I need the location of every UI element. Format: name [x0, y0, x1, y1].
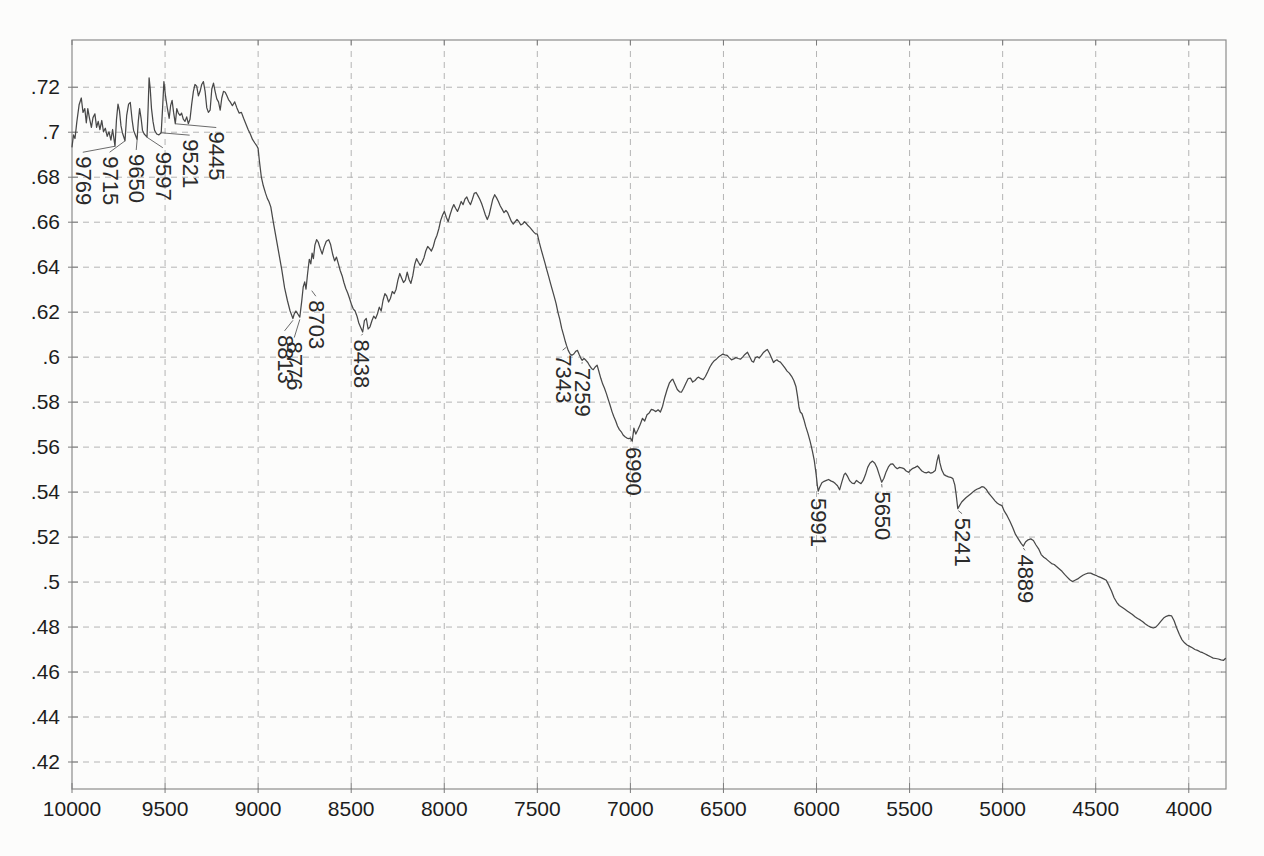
peak-label-5991: 5991 — [806, 498, 831, 547]
y-tick-label: .68 — [31, 165, 60, 188]
x-tick-label: 4000 — [1165, 797, 1212, 820]
peak-leader-line — [136, 140, 137, 150]
peak-label-9597: 9597 — [151, 152, 176, 201]
peak-label-9445: 9445 — [204, 132, 229, 181]
x-tick-label: 7500 — [514, 797, 561, 820]
spectrum-curve — [72, 78, 1225, 661]
peak-label-5241: 5241 — [950, 518, 975, 567]
y-tick-label: .56 — [31, 435, 60, 458]
gridlines — [72, 40, 1226, 789]
spectrum-plot-svg: 1000095009000850080007500700065006000550… — [0, 0, 1264, 856]
y-tick-label: .58 — [31, 390, 60, 413]
peak-leader-line — [361, 334, 362, 335]
peak-leader-line — [147, 137, 163, 147]
y-tick-label: .7 — [42, 120, 60, 143]
x-axis-labels: 1000095009000850080007500700065006000550… — [43, 797, 1212, 820]
y-tick-label: .66 — [31, 210, 60, 233]
x-tick-label: 5000 — [979, 797, 1026, 820]
y-tick-label: .52 — [31, 525, 60, 548]
spectrum-chart: 1000095009000850080007500700065006000550… — [0, 0, 1264, 856]
peak-label-5650: 5650 — [870, 491, 895, 540]
x-tick-label: 4500 — [1072, 797, 1119, 820]
y-tick-label: .6 — [42, 345, 60, 368]
plot-frame — [72, 40, 1226, 789]
peak-leader-line — [312, 291, 316, 297]
peak-leader-line — [175, 124, 216, 128]
x-tick-label: 6000 — [793, 797, 840, 820]
peak-leader-line — [958, 511, 962, 514]
peak-label-4889: 4889 — [1013, 554, 1038, 603]
peak-leader-line — [563, 347, 567, 350]
y-tick-label: .54 — [31, 480, 61, 503]
y-tick-label: .46 — [31, 660, 60, 683]
frame-rect — [72, 40, 1226, 789]
y-axis-labels: .72.7.68.66.64.62.6.58.56.54.52.5.48.46.… — [31, 75, 61, 773]
y-tick-label: .5 — [42, 570, 60, 593]
x-tick-label: 9500 — [142, 797, 189, 820]
peak-annotations: 9769971596509597952194458813877687038438… — [71, 124, 1038, 604]
y-tick-label: .64 — [31, 255, 61, 278]
x-tick-label: 6500 — [700, 797, 747, 820]
x-tick-label: 8000 — [421, 797, 468, 820]
peak-label-9521: 9521 — [178, 139, 203, 188]
peak-leader-line — [1023, 548, 1025, 550]
spectrum-series — [72, 78, 1225, 661]
x-tick-label: 5500 — [886, 797, 933, 820]
x-tick-label: 7000 — [607, 797, 654, 820]
peak-label-9769: 9769 — [71, 156, 96, 205]
y-tick-label: .72 — [31, 75, 60, 98]
peak-label-7259: 7259 — [570, 368, 595, 417]
peak-label-9715: 9715 — [98, 156, 123, 205]
peak-leader-line — [285, 320, 293, 330]
peak-label-8438: 8438 — [349, 339, 374, 388]
x-tick-label: 8500 — [328, 797, 375, 820]
y-tick-label: .48 — [31, 615, 60, 638]
y-tick-label: .62 — [31, 300, 60, 323]
peak-label-6990: 6990 — [621, 447, 646, 496]
y-tick-label: .42 — [31, 750, 60, 773]
peak-label-8703: 8703 — [304, 300, 329, 349]
x-tick-label: 10000 — [43, 797, 101, 820]
x-tick-label: 9000 — [235, 797, 282, 820]
peak-label-8776: 8776 — [282, 342, 307, 391]
peak-label-9650: 9650 — [124, 154, 149, 203]
y-tick-label: .44 — [31, 705, 61, 728]
